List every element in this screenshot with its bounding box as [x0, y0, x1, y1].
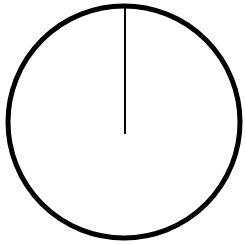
- figure-canvas: [0, 0, 245, 244]
- canvas-background: [0, 0, 245, 244]
- circle-with-radius-figure: [0, 0, 245, 244]
